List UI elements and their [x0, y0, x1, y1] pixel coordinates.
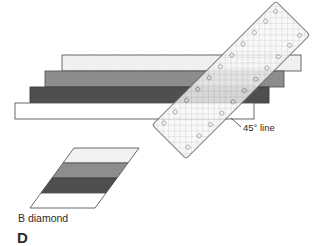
annotation-45-line: 45° line [243, 122, 275, 133]
diamond-band-medium [52, 163, 128, 178]
b-diamond-unit [30, 148, 139, 208]
panel-label: D [17, 229, 28, 246]
annotation-b-diamond: B diamond [18, 212, 68, 224]
diamond-band-white [30, 193, 106, 208]
diamond-band-light [63, 148, 139, 163]
diamond-band-dark [41, 178, 117, 193]
illustration-canvas: 45° line B diamond D [0, 0, 326, 246]
figure-panel-d: 45° line B diamond D [0, 0, 326, 246]
